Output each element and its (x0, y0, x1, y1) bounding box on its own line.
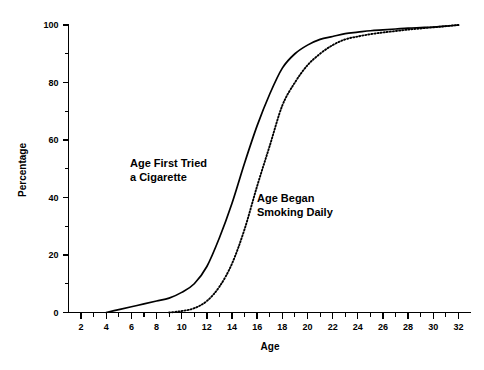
annotation-age-first-tried-line1: Age First Tried (130, 157, 207, 169)
x-tick-label: 22 (328, 322, 338, 332)
y-axis-title: Percentage (17, 143, 28, 197)
x-tick-label: 2 (79, 322, 84, 332)
x-tick-label: 10 (177, 322, 187, 332)
x-tick-label: 16 (252, 322, 262, 332)
x-tick-label: 30 (428, 322, 438, 332)
chart-background (0, 0, 484, 370)
annotation-age-began-daily-line1: Age Began (257, 192, 315, 204)
x-tick-label: 24 (353, 322, 363, 332)
annotation-age-first-tried-line2: a Cigarette (130, 171, 187, 183)
chart-page: 020406080100 246810121416182022242628303… (0, 0, 484, 370)
annotation-age-began-daily-line2: Smoking Daily (257, 206, 334, 218)
x-tick-label: 8 (154, 322, 159, 332)
y-tick-label: 60 (48, 135, 58, 145)
x-tick-label: 18 (277, 322, 287, 332)
cumulative-age-chart: 020406080100 246810121416182022242628303… (0, 0, 484, 370)
y-tick-label: 40 (48, 193, 58, 203)
y-tick-label: 0 (53, 308, 58, 318)
y-tick-label: 100 (43, 20, 58, 30)
x-axis-title: Age (261, 341, 280, 352)
x-tick-label: 20 (302, 322, 312, 332)
y-tick-label: 80 (48, 78, 58, 88)
y-tick-label: 20 (48, 250, 58, 260)
x-tick-label: 12 (202, 322, 212, 332)
x-tick-label: 14 (227, 322, 237, 332)
x-tick-label: 6 (129, 322, 134, 332)
x-tick-label: 26 (378, 322, 388, 332)
x-tick-label: 28 (403, 322, 413, 332)
x-tick-label: 32 (453, 322, 463, 332)
x-tick-label: 4 (104, 322, 109, 332)
